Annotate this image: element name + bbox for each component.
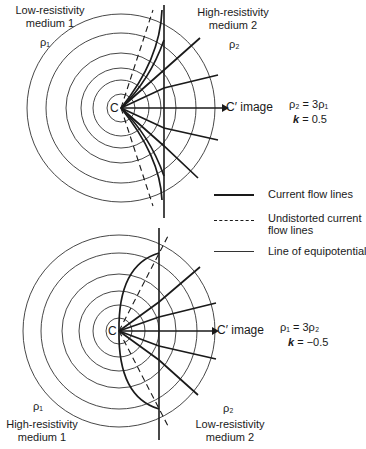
dashed-line-icon	[214, 220, 254, 221]
top-medium2-label: High-resistivity medium 2	[190, 6, 276, 32]
top-current-lines	[121, 10, 222, 200]
bottom-medium2-label: Low-resistivity medium 2	[190, 418, 270, 444]
top-equations: ρ₂ = 3ρ₁ k = 0.5	[289, 97, 328, 127]
top-k: k = 0.5	[289, 112, 328, 127]
bottom-medium2-line2: medium 2	[190, 431, 270, 444]
top-medium2-line1: High-resistivity	[190, 6, 276, 19]
top-source-c: C	[110, 102, 119, 115]
legend-undistorted-text: Undistorted current flow lines	[268, 212, 362, 236]
thin-line-icon	[214, 251, 254, 252]
top-rho2: ρ₂	[229, 38, 240, 51]
legend-undistorted-line2: flow lines	[268, 224, 362, 236]
bottom-image-label: C′ image	[217, 324, 264, 337]
top-relation: ρ₂ = 3ρ₁	[289, 97, 328, 112]
bottom-source-c: C	[108, 325, 117, 338]
solid-thick-line-icon	[214, 194, 254, 196]
top-rho1: ρ₁	[40, 36, 50, 49]
legend-undistorted-line1: Undistorted current	[268, 212, 362, 224]
bottom-medium1-label: High-resistivity medium 1	[2, 418, 82, 444]
bottom-rho1: ρ₁	[33, 400, 43, 413]
bottom-equations: ρ₁ = 3ρ₂ k = −0.5	[280, 320, 328, 350]
bottom-rho2: ρ₂	[223, 402, 234, 415]
top-medium1-line1: Low-resistivity	[10, 4, 90, 17]
top-medium2-line2: medium 2	[190, 19, 276, 32]
top-image-label: C′ image	[226, 101, 273, 114]
top-medium1-label: Low-resistivity medium 1	[10, 4, 90, 30]
bottom-relation: ρ₁ = 3ρ₂	[280, 320, 328, 335]
top-k-symbol: k	[293, 113, 299, 125]
bottom-k: k = −0.5	[280, 335, 328, 350]
legend-equipotential-text: Line of equipotential	[268, 245, 366, 257]
bottom-current-lines	[119, 253, 216, 409]
bottom-k-symbol: k	[288, 336, 294, 348]
bottom-medium1-line2: medium 1	[2, 431, 82, 444]
top-k-value: = 0.5	[302, 113, 327, 125]
bottom-medium2-line1: Low-resistivity	[190, 418, 270, 431]
bottom-k-value: = −0.5	[297, 336, 328, 348]
bottom-medium1-line1: High-resistivity	[2, 418, 82, 431]
legend-current-flow-text: Current flow lines	[268, 188, 353, 200]
top-medium1-line2: medium 1	[10, 17, 90, 30]
